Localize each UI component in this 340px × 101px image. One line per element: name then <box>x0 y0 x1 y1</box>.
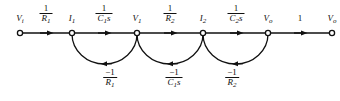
node-vo-1[interactable] <box>265 30 270 35</box>
feedback-arcs <box>72 34 268 64</box>
node-label-i2: I2 <box>200 14 207 23</box>
node-label-i1: I1 <box>69 14 76 23</box>
gain-label-forward-2: 1 C1s <box>95 4 112 23</box>
gain-label-forward-5: 1 <box>298 14 303 23</box>
node-label-vo-2: Vo <box>328 14 337 23</box>
node-label-vi: Vi <box>16 14 23 23</box>
feedback-arc-1 <box>72 34 137 64</box>
node-v1[interactable] <box>134 30 139 35</box>
feedback-arc-3 <box>203 34 268 64</box>
node-label-vo-1: Vo <box>264 14 273 23</box>
node-i1[interactable] <box>69 30 74 35</box>
gain-label-forward-4: 1 C2s <box>227 4 244 23</box>
gain-label-feedback-3: −1 R2 <box>225 68 239 87</box>
node-i2[interactable] <box>200 30 205 35</box>
node-vi[interactable] <box>17 30 22 35</box>
feedback-arc-2 <box>137 34 203 64</box>
gain-label-feedback-1: −1 R1 <box>103 68 117 87</box>
node-vo-2[interactable] <box>329 30 334 35</box>
signal-flow-graph-diagram: Vi I1 V1 I2 Vo Vo 1 R1 1 C1s 1 R2 1 C2s … <box>0 0 340 101</box>
gain-label-forward-1: 1 R1 <box>40 4 53 23</box>
gain-label-forward-3: 1 R2 <box>164 4 177 23</box>
node-label-v1: V1 <box>133 14 142 23</box>
gain-label-feedback-2: −1 C1s <box>165 68 182 87</box>
